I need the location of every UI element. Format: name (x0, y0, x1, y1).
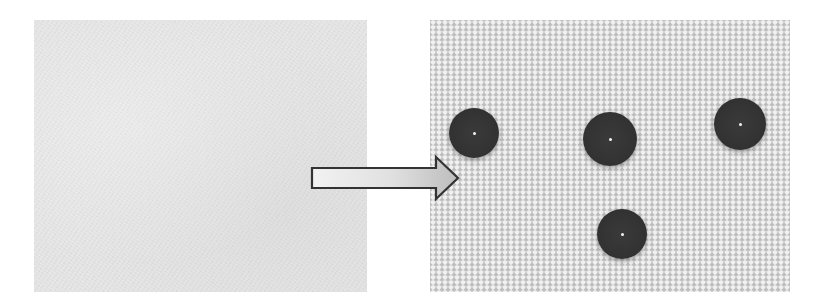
water-droplet (597, 209, 647, 259)
droplet-highlight (739, 123, 742, 126)
droplet-highlight (473, 132, 476, 135)
right-arrow-icon (310, 154, 462, 202)
after-fabric-panel (430, 20, 790, 292)
water-droplet (583, 112, 637, 166)
droplet-count: 4 (0, 0, 1, 1)
water-droplet (449, 108, 499, 158)
droplet-highlight (609, 138, 612, 141)
droplet-highlight (621, 233, 624, 236)
water-droplet (714, 98, 766, 150)
